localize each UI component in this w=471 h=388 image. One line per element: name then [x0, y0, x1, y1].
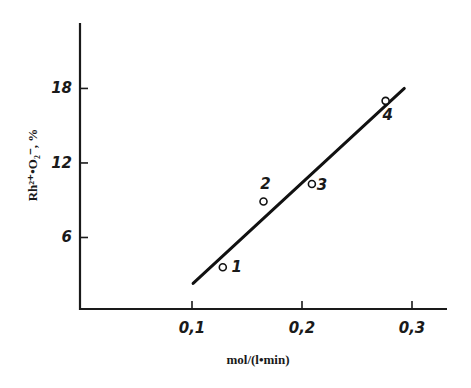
data-point: [219, 264, 226, 271]
y-axis-label: Rh²⁺•O₂⁻, %: [25, 129, 40, 202]
x-tick-label: 0,2: [289, 319, 316, 337]
data-point-label: 4: [381, 106, 392, 124]
x-axis-label: mol/(l•min): [226, 352, 289, 367]
data-point-label: 3: [317, 176, 327, 194]
y-tick-label: 12: [51, 154, 72, 172]
data-point-label: 2: [260, 175, 270, 193]
chart: 0,10,20,361218 1234 mol/(l•min) Rh²⁺•O₂⁻…: [0, 0, 471, 388]
y-tick-label: 6: [62, 228, 72, 246]
data-point: [260, 198, 267, 205]
axes: [79, 23, 447, 310]
data-point: [382, 97, 389, 104]
x-tick-label: 0,1: [179, 319, 206, 337]
series: 1234: [193, 88, 404, 283]
data-point-label: 1: [232, 258, 242, 276]
fit-line: [193, 88, 404, 283]
ticks: 0,10,20,361218: [51, 79, 425, 337]
y-tick-label: 18: [51, 79, 72, 97]
x-tick-label: 0,3: [399, 319, 426, 337]
data-point: [308, 181, 315, 188]
